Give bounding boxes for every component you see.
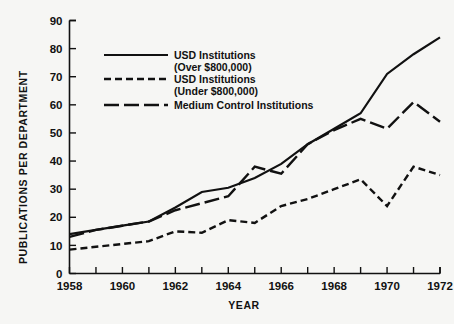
series-line-2 [70, 102, 441, 237]
x-tick-label: 1966 [268, 280, 294, 292]
y-axis-title: PUBLICATIONS PER DEPARTMENT [17, 70, 29, 264]
y-tick-label: 60 [50, 99, 63, 111]
y-tick-label: 50 [50, 127, 63, 139]
series-lines [70, 37, 441, 249]
legend-sublabel-1: (Under $800,000) [174, 85, 258, 97]
x-axis-title: YEAR [228, 299, 260, 311]
y-axis-ticks: 0102030405060708090 [50, 15, 76, 280]
y-tick-label: 20 [50, 211, 63, 223]
x-tick-label: 1958 [57, 280, 83, 292]
x-axis-ticks: 19581960196219641966196819701972 [57, 267, 453, 292]
chart-container: PUBLICATIONS PER DEPARTMENT YEAR 0102030… [0, 0, 454, 324]
chart-legend: USD Institutions(Over $800,000)USD Insti… [104, 49, 314, 111]
y-tick-label: 0 [56, 268, 62, 280]
y-tick-label: 10 [50, 240, 63, 252]
y-tick-label: 90 [50, 15, 63, 27]
y-tick-label: 70 [50, 71, 63, 83]
legend-label-2: Medium Control Institutions [174, 99, 314, 111]
y-tick-label: 80 [50, 43, 63, 55]
series-line-1 [70, 167, 441, 250]
x-tick-label: 1962 [163, 280, 189, 292]
line-chart: PUBLICATIONS PER DEPARTMENT YEAR 0102030… [0, 0, 454, 324]
x-tick-label: 1968 [321, 280, 347, 292]
legend-label-0: USD Institutions [174, 49, 256, 61]
series-line-0 [70, 37, 441, 234]
legend-label-1: USD Institutions [174, 73, 256, 85]
y-tick-label: 30 [50, 183, 63, 195]
x-tick-label: 1964 [215, 280, 241, 292]
y-tick-label: 40 [50, 155, 63, 167]
x-tick-label: 1972 [427, 280, 453, 292]
legend-sublabel-0: (Over $800,000) [174, 61, 252, 73]
x-tick-label: 1960 [110, 280, 136, 292]
x-tick-label: 1970 [374, 280, 400, 292]
